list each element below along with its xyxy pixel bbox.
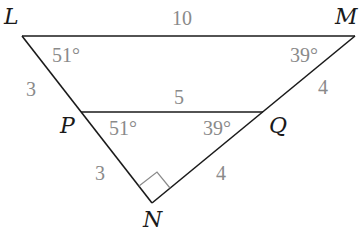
angle-l: 51° bbox=[52, 44, 80, 66]
right-angle-marker bbox=[139, 172, 170, 188]
angle-p: 51° bbox=[109, 117, 137, 139]
angle-q: 39° bbox=[203, 117, 231, 139]
length-pn: 3 bbox=[95, 162, 105, 184]
length-lm: 10 bbox=[172, 7, 192, 29]
length-lp: 3 bbox=[26, 78, 36, 100]
segment-mn bbox=[152, 36, 355, 203]
length-mq: 4 bbox=[318, 76, 328, 98]
vertex-label-l: L bbox=[3, 4, 19, 29]
length-qn: 4 bbox=[216, 162, 226, 184]
vertex-label-n: N bbox=[142, 207, 163, 232]
length-pq: 5 bbox=[174, 86, 184, 108]
angle-m: 39° bbox=[290, 44, 318, 66]
vertex-label-q: Q bbox=[269, 113, 287, 138]
vertex-label-m: M bbox=[334, 4, 358, 29]
vertex-label-p: P bbox=[59, 113, 76, 138]
geometry-diagram: L M P Q N 10 3 5 4 3 4 51° 39° 51° 39° bbox=[0, 0, 363, 233]
